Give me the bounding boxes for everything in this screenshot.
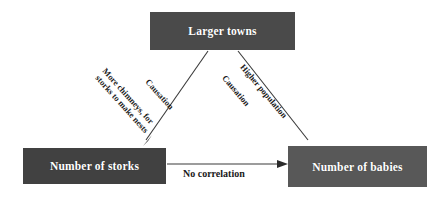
edge-storks-to-babies <box>167 160 288 168</box>
node-number-of-babies-label: Number of babies <box>312 161 403 173</box>
edge-label-storks-to-babies-relation: No correlation <box>183 168 245 179</box>
edge-towns-to-storks <box>143 51 208 146</box>
node-larger-towns-label: Larger towns <box>188 25 256 37</box>
node-number-of-babies: Number of babies <box>288 146 427 187</box>
node-larger-towns: Larger towns <box>150 12 295 50</box>
node-number-of-storks-label: Number of storks <box>50 160 139 172</box>
diagram-canvas: Larger towns Number of storks Number of … <box>0 0 442 210</box>
node-number-of-storks: Number of storks <box>23 148 166 184</box>
